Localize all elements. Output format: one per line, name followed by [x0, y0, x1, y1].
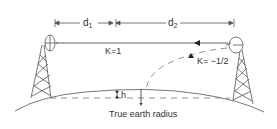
- left-tower: [31, 45, 51, 98]
- k-straight-label: K=1: [105, 46, 121, 56]
- h-marker: [116, 91, 119, 98]
- earth-radius-label: True earth radius: [109, 109, 178, 119]
- curved-beam-dashed: [146, 48, 227, 90]
- link-diagram: d1 d2: [0, 0, 277, 129]
- right-dish-antenna: [226, 37, 243, 53]
- dimension-line: [55, 19, 234, 27]
- h-label: h: [121, 90, 126, 100]
- d1-label: d1: [83, 17, 93, 29]
- d2-label: d2: [168, 17, 178, 29]
- k-curved-label: K= −1/2: [197, 56, 229, 66]
- right-tower: [233, 50, 253, 104]
- direct-beam-line: [56, 40, 228, 46]
- radius-arrow: [140, 89, 143, 106]
